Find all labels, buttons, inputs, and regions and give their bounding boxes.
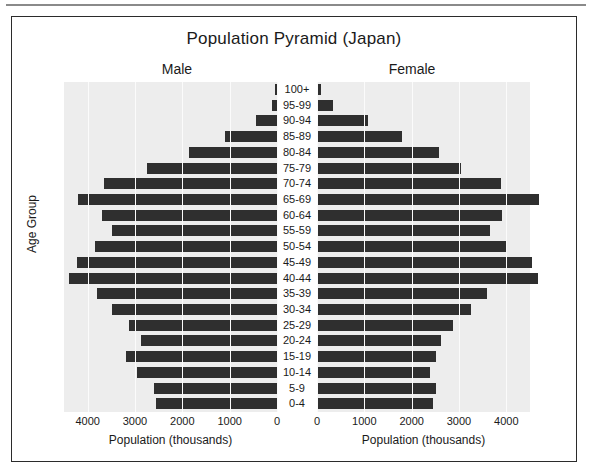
bar-row [317,145,530,161]
bar-male-30-34 [112,304,277,315]
bar-row [317,349,530,365]
bar-row [64,365,277,381]
bar-row [64,129,277,145]
age-group-label: 75-79 [277,161,317,177]
gridline [182,82,183,412]
bar-female-70-74 [317,178,501,189]
bar-row [317,396,530,412]
bar-female-85-89 [317,131,402,142]
x-tick-label: 4000 [482,415,530,427]
bar-row [64,113,277,129]
bar-row [317,129,530,145]
age-group-label: 25-29 [277,318,317,334]
bar-row [64,223,277,239]
age-group-label: 85-89 [277,129,317,145]
bar-row [317,302,530,318]
bar-row [64,255,277,271]
bar-male-20-24 [141,335,277,346]
bar-male-25-29 [129,320,277,331]
male-plot-area [64,82,277,412]
bar-row [317,82,530,98]
bar-row [317,271,530,287]
bar-male-35-39 [97,288,277,299]
age-group-label: 20-24 [277,333,317,349]
bar-row [64,286,277,302]
bar-female-40-44 [317,273,538,284]
gridline [459,82,460,412]
bar-male-80-84 [189,147,277,158]
bar-row [317,365,530,381]
age-group-label: 10-14 [277,365,317,381]
gridline [230,82,231,412]
bar-male-45-49 [77,257,277,268]
bar-female-95-99 [317,100,333,111]
bar-female-0-4 [317,398,433,409]
y-axis-label: Age Group [25,164,39,284]
chart-figure: Population Pyramid (Japan) Male Female A… [11,16,577,462]
x-tick-label: 4000 [64,415,112,427]
gridline [135,82,136,412]
bar-row [317,161,530,177]
age-group-label: 90-94 [277,113,317,129]
bar-row [64,349,277,365]
gridline [364,82,365,412]
bar-row [317,318,530,334]
female-x-axis-title: Population (thousands) [307,433,540,451]
age-group-label: 15-19 [277,349,317,365]
bar-male-0-4 [156,398,277,409]
x-tick-label: 1000 [340,415,388,427]
bar-row [317,176,530,192]
bar-row [64,208,277,224]
bar-row [317,333,530,349]
bar-male-70-74 [104,178,277,189]
bar-male-50-54 [95,241,277,252]
bar-row [64,161,277,177]
bar-female-20-24 [317,335,441,346]
bar-female-55-59 [317,225,490,236]
bar-male-60-64 [102,210,277,221]
age-group-label: 80-84 [277,145,317,161]
bar-row [64,318,277,334]
bar-row [317,208,530,224]
bar-female-15-19 [317,351,436,362]
female-bar-rows [317,82,530,412]
bar-row [317,381,530,397]
x-tick-label: 2000 [158,415,206,427]
bar-male-40-44 [69,273,277,284]
x-tick-label: 3000 [435,415,483,427]
bar-row [317,255,530,271]
age-group-label: 95-99 [277,98,317,114]
male-x-axis-ticks: 40003000200010000 [64,415,277,431]
bar-row [64,333,277,349]
bar-female-5-9 [317,383,436,394]
age-group-label: 0-4 [277,396,317,412]
age-group-label: 35-39 [277,286,317,302]
bar-row [317,239,530,255]
bar-row [317,192,530,208]
bar-row [317,223,530,239]
male-bar-rows [64,82,277,412]
bar-row [64,302,277,318]
chart-title: Population Pyramid (Japan) [12,29,576,49]
x-tick-label: 0 [293,415,341,427]
gridline [317,82,318,412]
bar-female-60-64 [317,210,502,221]
bar-male-90-94 [256,115,277,126]
bar-female-10-14 [317,367,430,378]
age-group-labels: 100+95-9990-9485-8980-8475-7970-7465-696… [277,82,317,412]
female-x-axis-ticks: 01000200030004000 [317,415,530,431]
age-group-label: 60-64 [277,208,317,224]
x-tick-label: 2000 [388,415,436,427]
x-tick-label: 3000 [111,415,159,427]
bar-row [317,98,530,114]
age-group-label: 5-9 [277,381,317,397]
bar-row [64,176,277,192]
male-panel-heading: Male [132,61,222,77]
bar-row [64,145,277,161]
gridline [88,82,89,412]
bar-row [317,113,530,129]
male-x-axis-title: Population (thousands) [54,433,287,451]
age-group-label: 70-74 [277,176,317,192]
bar-female-30-34 [317,304,471,315]
bar-female-35-39 [317,288,487,299]
